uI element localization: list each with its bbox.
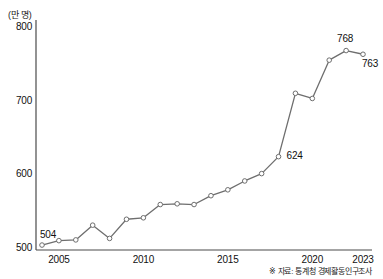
point-label-504: 504: [40, 229, 56, 240]
x-axis-tick-2005: 2005: [39, 254, 79, 265]
point-label-763: 763: [362, 58, 378, 69]
y-axis-tick-700: 700: [2, 95, 32, 106]
x-axis-tick-2010: 2010: [123, 254, 163, 265]
y-axis-tick-600: 600: [2, 168, 32, 179]
point-label-768: 768: [337, 33, 353, 44]
y-axis-tick-500: 500: [2, 242, 32, 253]
source-note: ※ 자료: 통계청 경제활동인구조사: [269, 265, 372, 276]
x-axis-tick-2023: 2023: [343, 254, 383, 265]
y-axis-tick-800: 800: [2, 21, 32, 32]
x-axis-tick-2015: 2015: [208, 254, 248, 265]
x-axis-tick-2020: 2020: [292, 254, 332, 265]
point-label-624: 624: [287, 150, 303, 161]
